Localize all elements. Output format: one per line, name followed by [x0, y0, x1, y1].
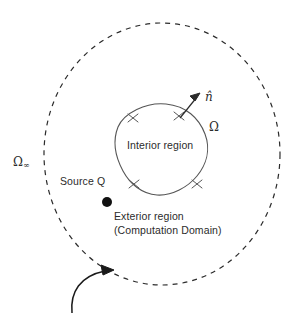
- curved-pointer-to-outer-boundary: [72, 265, 114, 313]
- boundary-tick-mark: [192, 180, 202, 188]
- label-exterior-region: Exterior region: [114, 210, 184, 223]
- label-interior-region: Interior region: [127, 139, 193, 152]
- far-field-dashed-circle: [44, 23, 280, 285]
- label-source-q: Source Q: [60, 175, 105, 188]
- omega-infinity-subscript: ∞: [23, 161, 30, 170]
- boundary-tick-mark: [174, 112, 184, 120]
- label-normal-vector: n̂: [205, 90, 213, 104]
- scattering-domain-diagram: Ω∞ Ω n̂ Interior region Source Q Exterio…: [0, 0, 303, 318]
- label-computation-domain: (Computation Domain): [114, 224, 222, 237]
- omega-infinity-symbol: Ω: [13, 155, 23, 169]
- boundary-tick-mark: [128, 114, 138, 122]
- boundary-tick-mark: [129, 180, 139, 188]
- label-omega: Ω: [209, 120, 219, 134]
- normal-vector-arrow: [180, 93, 200, 118]
- source-dot: [102, 197, 112, 207]
- diagram-canvas: [0, 0, 303, 318]
- label-omega-infinity: Ω∞: [13, 155, 30, 170]
